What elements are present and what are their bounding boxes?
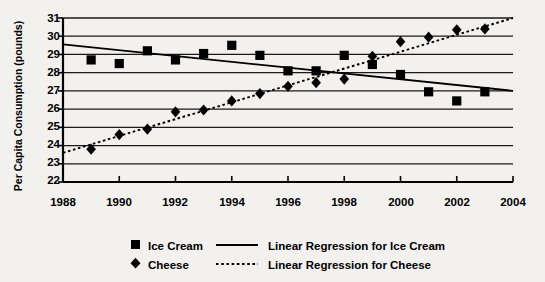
- legend-marker-diamond-icon: [131, 258, 141, 269]
- data-point-ice-cream: [171, 55, 180, 64]
- data-point-cheese: [199, 104, 209, 115]
- data-point-cheese: [452, 24, 462, 35]
- data-point-cheese: [396, 36, 406, 47]
- data-point-cheese: [114, 129, 124, 140]
- data-point-ice-cream: [452, 96, 461, 105]
- data-point-ice-cream: [87, 55, 96, 64]
- data-point-ice-cream: [312, 66, 321, 75]
- data-point-ice-cream: [340, 51, 349, 60]
- legend-label-ice-cream: Ice Cream: [148, 240, 203, 252]
- legend-marker-square-icon: [131, 240, 140, 249]
- data-point-ice-cream: [255, 51, 264, 60]
- data-point-ice-cream: [396, 70, 405, 79]
- chart-container: Per Capita Consumption (pounds) 31 30 29…: [0, 0, 545, 282]
- data-point-ice-cream: [143, 46, 152, 55]
- data-point-ice-cream: [227, 41, 236, 50]
- data-point-cheese: [171, 106, 181, 117]
- data-point-ice-cream: [480, 87, 489, 96]
- legend-label-reg-cheese: Linear Regression for Cheese: [268, 259, 431, 271]
- data-point-cheese: [227, 95, 237, 106]
- data-point-ice-cream: [283, 66, 292, 75]
- data-point-ice-cream: [199, 49, 208, 58]
- data-point-ice-cream: [115, 59, 124, 68]
- legend-label-reg-ice-cream: Linear Regression for Ice Cream: [268, 240, 445, 252]
- data-point-ice-cream: [424, 87, 433, 96]
- legend-label-cheese: Cheese: [148, 259, 189, 271]
- data-point-cheese: [424, 32, 434, 43]
- data-point-cheese: [339, 73, 349, 84]
- data-point-cheese: [143, 124, 153, 135]
- data-point-cheese: [255, 88, 265, 99]
